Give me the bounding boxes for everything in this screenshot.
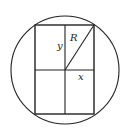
label-R: R	[69, 32, 78, 43]
label-y: y	[56, 40, 63, 51]
label-x: x	[78, 71, 84, 82]
diagram-canvas: y R x	[0, 0, 125, 131]
circle-rectangle-diagram: y R x	[0, 0, 125, 131]
